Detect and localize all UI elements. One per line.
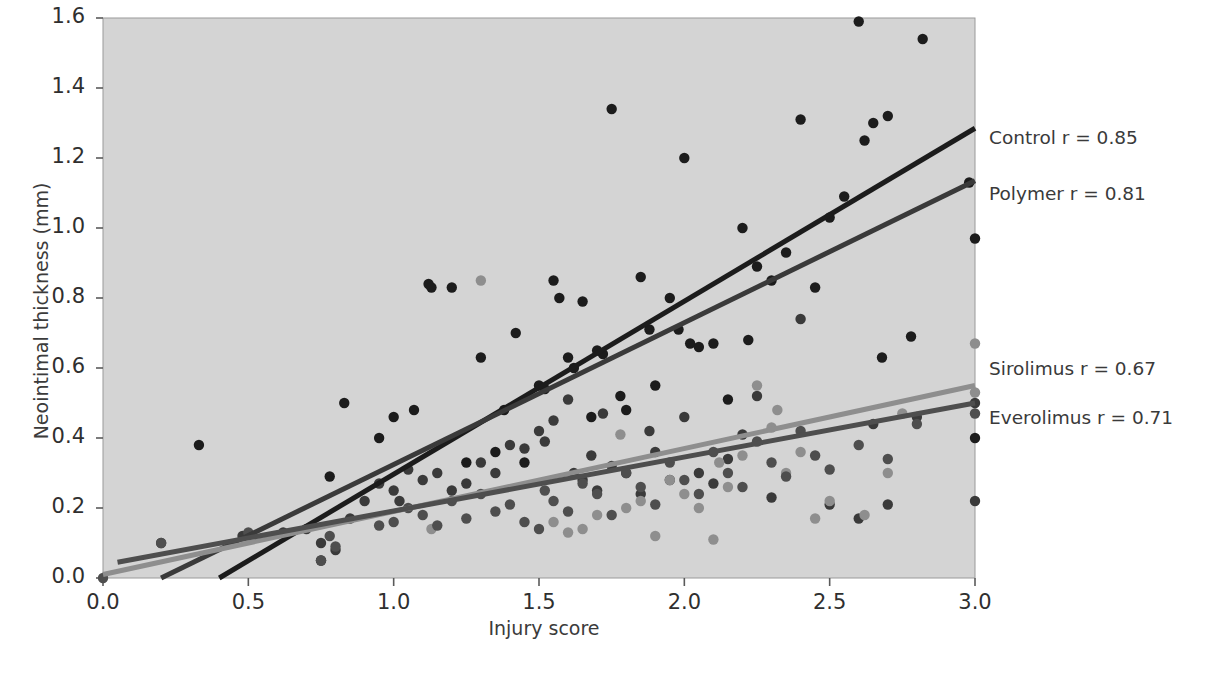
data-point bbox=[615, 429, 625, 439]
data-point bbox=[316, 538, 326, 548]
data-point bbox=[665, 293, 675, 303]
data-point bbox=[156, 538, 166, 548]
data-point bbox=[679, 412, 689, 422]
data-point bbox=[868, 118, 878, 128]
data-point bbox=[476, 275, 486, 285]
data-point bbox=[824, 464, 834, 474]
data-point bbox=[586, 450, 596, 460]
y-tick-label: 0.2 bbox=[23, 494, 85, 518]
data-point bbox=[694, 468, 704, 478]
data-point bbox=[883, 499, 893, 509]
y-axis-title: Neointimal thickness (mm) bbox=[30, 166, 52, 456]
data-point bbox=[554, 293, 564, 303]
data-point bbox=[708, 338, 718, 348]
x-tick-label: 0.0 bbox=[68, 590, 138, 614]
data-point bbox=[824, 496, 834, 506]
data-point bbox=[540, 485, 550, 495]
data-point bbox=[606, 510, 616, 520]
data-point bbox=[548, 517, 558, 527]
data-point bbox=[766, 457, 776, 467]
data-point bbox=[409, 405, 419, 415]
data-point bbox=[906, 331, 916, 341]
data-point bbox=[723, 468, 733, 478]
data-point bbox=[708, 478, 718, 488]
data-point bbox=[563, 394, 573, 404]
data-point bbox=[606, 104, 616, 114]
data-point bbox=[490, 468, 500, 478]
data-point bbox=[511, 328, 521, 338]
x-tick-label: 3.0 bbox=[940, 590, 1010, 614]
data-point bbox=[577, 524, 587, 534]
x-tick-label: 2.5 bbox=[795, 590, 865, 614]
data-point bbox=[650, 380, 660, 390]
data-point bbox=[330, 541, 340, 551]
data-point bbox=[679, 153, 689, 163]
data-point bbox=[426, 282, 436, 292]
data-point bbox=[418, 510, 428, 520]
data-point bbox=[577, 296, 587, 306]
data-point bbox=[854, 16, 864, 26]
legend-label-sirolimus: Sirolimus r = 0.67 bbox=[989, 358, 1156, 379]
data-point bbox=[490, 447, 500, 457]
data-point bbox=[325, 471, 335, 481]
data-point bbox=[540, 436, 550, 446]
data-point bbox=[548, 415, 558, 425]
y-tick-label: 1.2 bbox=[23, 144, 85, 168]
scatter-chart-figure bbox=[0, 0, 1216, 679]
data-point bbox=[912, 419, 922, 429]
data-point bbox=[737, 482, 747, 492]
data-point bbox=[447, 282, 457, 292]
data-point bbox=[679, 489, 689, 499]
data-point bbox=[505, 440, 515, 450]
data-point bbox=[374, 520, 384, 530]
data-point bbox=[781, 471, 791, 481]
data-point bbox=[970, 433, 980, 443]
data-point bbox=[388, 485, 398, 495]
data-point bbox=[388, 412, 398, 422]
data-point bbox=[854, 440, 864, 450]
data-point bbox=[621, 405, 631, 415]
data-point bbox=[592, 489, 602, 499]
data-point bbox=[970, 387, 980, 397]
data-point bbox=[694, 503, 704, 513]
y-tick-label: 0.6 bbox=[23, 354, 85, 378]
data-point bbox=[781, 247, 791, 257]
data-point bbox=[636, 272, 646, 282]
data-point bbox=[194, 440, 204, 450]
data-point bbox=[644, 426, 654, 436]
x-tick-label: 1.5 bbox=[504, 590, 574, 614]
data-point bbox=[534, 524, 544, 534]
data-point bbox=[586, 412, 596, 422]
data-point bbox=[563, 506, 573, 516]
data-point bbox=[650, 531, 660, 541]
data-point bbox=[374, 433, 384, 443]
data-point bbox=[839, 191, 849, 201]
y-tick-label: 1.4 bbox=[23, 74, 85, 98]
data-point bbox=[577, 478, 587, 488]
data-point bbox=[316, 555, 326, 565]
data-point bbox=[917, 34, 927, 44]
data-point bbox=[795, 447, 805, 457]
data-point bbox=[737, 450, 747, 460]
data-point bbox=[737, 223, 747, 233]
data-point bbox=[592, 510, 602, 520]
data-point bbox=[432, 468, 442, 478]
data-point bbox=[883, 111, 893, 121]
data-point bbox=[621, 503, 631, 513]
y-tick-label: 0.0 bbox=[23, 564, 85, 588]
data-point bbox=[388, 517, 398, 527]
data-point bbox=[650, 499, 660, 509]
data-point bbox=[859, 135, 869, 145]
data-point bbox=[598, 408, 608, 418]
data-point bbox=[810, 513, 820, 523]
data-point bbox=[432, 520, 442, 530]
data-point bbox=[795, 114, 805, 124]
data-point bbox=[519, 517, 529, 527]
data-point bbox=[723, 482, 733, 492]
data-point bbox=[883, 454, 893, 464]
data-point bbox=[810, 282, 820, 292]
data-point bbox=[752, 380, 762, 390]
y-tick-label: 1.0 bbox=[23, 214, 85, 238]
data-point bbox=[519, 443, 529, 453]
data-point bbox=[795, 314, 805, 324]
